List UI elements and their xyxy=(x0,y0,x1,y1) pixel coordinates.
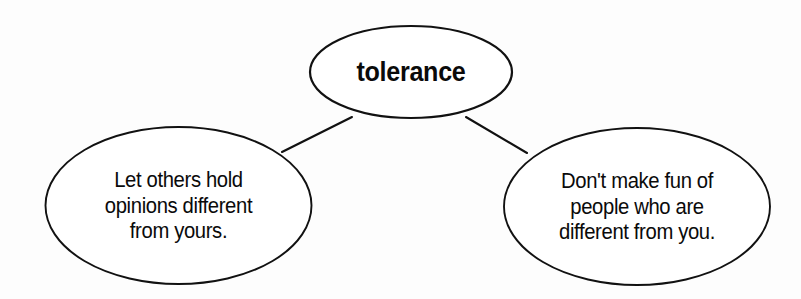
diagram-canvas xyxy=(0,0,801,299)
right-node-ellipse[interactable] xyxy=(504,128,770,285)
left-node-ellipse[interactable] xyxy=(46,127,312,284)
connector-left-line xyxy=(282,117,352,152)
center-node-ellipse[interactable] xyxy=(310,26,512,118)
concept-web-diagram: tolerance Let others hold opinions diffe… xyxy=(0,0,801,299)
connector-right-line xyxy=(466,117,527,153)
